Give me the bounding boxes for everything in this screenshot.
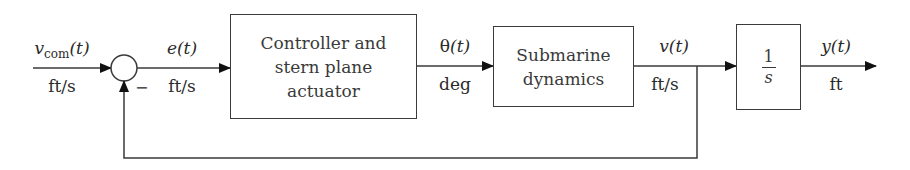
feedback-minus-sign: − <box>135 78 148 97</box>
controller-label-line3: actuator <box>287 79 360 103</box>
submarine-label-line1: Submarine <box>516 43 610 67</box>
theta-arg: (t) <box>450 36 470 56</box>
error-signal-label: e(t) <box>167 38 197 58</box>
output-signal-label: y(t) <box>821 36 851 56</box>
velocity-signal-label: v(t) <box>659 36 689 56</box>
theta-signal-label: θ(t) <box>440 36 470 56</box>
error-symbol: e <box>167 38 177 58</box>
velocity-arg: (t) <box>669 36 689 56</box>
controller-label-line2: stern plane <box>275 55 373 79</box>
integrator-denominator: s <box>764 69 772 87</box>
error-unit-label: ft/s <box>168 76 196 96</box>
input-unit-label: ft/s <box>48 76 76 96</box>
integrator-transfer-function: 1 s <box>762 48 776 87</box>
input-arg: (t) <box>69 38 89 58</box>
integrator-numerator: 1 <box>763 48 773 66</box>
output-unit-label: ft <box>829 74 842 94</box>
integrator-block: 1 s <box>736 24 801 110</box>
error-arg: (t) <box>177 38 197 58</box>
theta-symbol: θ <box>440 36 450 56</box>
summing-junction <box>111 55 137 81</box>
controller-label-line1: Controller and <box>261 31 387 55</box>
input-signal-label: vcom(t) <box>34 38 89 58</box>
velocity-symbol: v <box>659 36 669 56</box>
submarine-dynamics-block: Submarine dynamics <box>493 26 634 107</box>
controller-block: Controller and stern plane actuator <box>230 14 417 119</box>
theta-unit-label: deg <box>439 74 471 94</box>
input-symbol: v <box>34 38 44 58</box>
input-subscript: com <box>44 47 69 61</box>
output-symbol: y <box>821 36 831 56</box>
velocity-unit-label: ft/s <box>651 74 679 94</box>
submarine-label-line2: dynamics <box>523 67 604 91</box>
output-arg: (t) <box>831 36 851 56</box>
